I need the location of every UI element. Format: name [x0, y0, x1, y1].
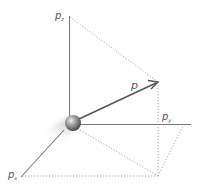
- dotted-top-to-tip: [70, 17, 158, 82]
- label-px: px: [7, 169, 17, 181]
- dotted-origin-to-base: [80, 130, 158, 176]
- momentum-vector: [79, 81, 158, 120]
- particle-sphere: [65, 115, 81, 131]
- label-pz: pz: [54, 10, 64, 22]
- label-py: py: [161, 111, 172, 124]
- label-p: p: [130, 79, 138, 92]
- momentum-vector-diagram: pz p py px: [0, 0, 201, 188]
- axes: [21, 16, 191, 177]
- projection-lines: [22, 17, 183, 176]
- x-axis: [21, 130, 64, 177]
- dotted-base-to-py: [158, 126, 183, 176]
